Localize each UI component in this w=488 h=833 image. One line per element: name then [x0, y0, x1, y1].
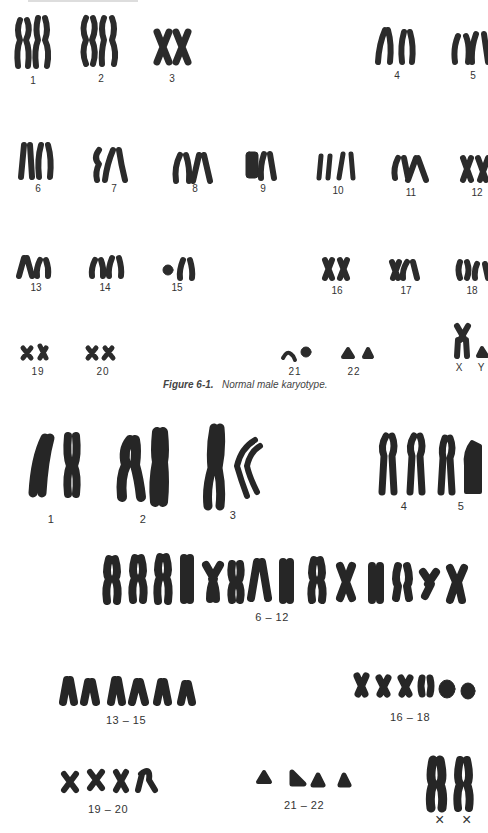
fig1-label: 3: [167, 73, 177, 84]
fig1-label: 4: [392, 70, 402, 81]
fig2-group-label: 21 – 22: [279, 799, 329, 811]
fig1-label: X: [454, 362, 464, 373]
fig2-group-label: 19 – 20: [83, 803, 133, 815]
karyotype-figure-2: [0, 395, 488, 833]
fig1-label: Y: [476, 362, 486, 373]
fig2-group-label: 1: [44, 513, 58, 525]
fig2-group-label: 2: [136, 513, 150, 525]
figure-caption-text: Normal male karyotype.: [222, 379, 328, 390]
fig1-label: 20: [95, 366, 111, 377]
fig1-label: 17: [398, 285, 414, 296]
fig1-label: 5: [468, 70, 478, 81]
fig2-group-label: 16 – 18: [385, 711, 435, 723]
fig1-label: 12: [469, 187, 485, 198]
fig1-label: 7: [109, 183, 119, 194]
fig1-label: 21: [287, 366, 303, 377]
fig2-group-label: 4: [397, 500, 411, 512]
fig1-label: 16: [329, 285, 345, 296]
fig2-group-label: 5: [454, 500, 468, 512]
fig1-label: 15: [169, 282, 185, 293]
figure-caption-number: Figure 6-1.: [163, 379, 214, 390]
fig1-label: 11: [403, 187, 419, 198]
fig2-group-label: 13 – 15: [101, 714, 151, 726]
fig1-label: 18: [464, 285, 480, 296]
fig1-label: 6: [33, 183, 43, 194]
fig2-group-label: 6 – 12: [247, 611, 297, 623]
fig1-label: 10: [330, 185, 346, 196]
figure-caption: Figure 6-1. Normal male karyotype.: [163, 379, 328, 390]
fig1-label: 19: [30, 366, 46, 377]
fig1-label: 9: [258, 183, 268, 194]
fig1-label: 1: [28, 75, 38, 86]
fig1-label: 2: [96, 73, 106, 84]
fig1-label: 14: [97, 282, 113, 293]
fig1-label: 13: [28, 282, 44, 293]
chromosome-images-fig2: [0, 395, 488, 833]
fig1-label: 22: [346, 366, 362, 377]
fig2-group-label: 3: [226, 509, 240, 521]
fig2-group-label: ×: [432, 811, 448, 829]
fig2-group-label: ×: [459, 811, 475, 829]
fig1-label: 8: [190, 183, 200, 194]
